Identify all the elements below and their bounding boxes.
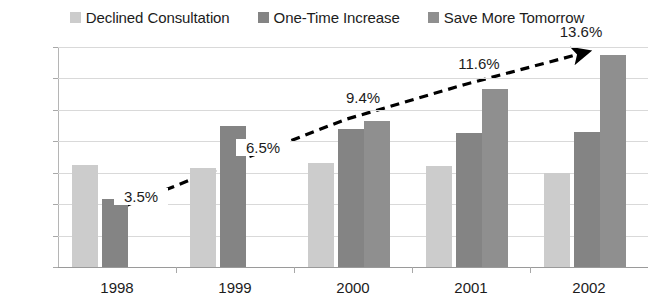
data-point-label: 11.6% <box>452 55 506 72</box>
y-axis-line <box>58 47 59 267</box>
gridline <box>58 78 648 79</box>
x-axis-tick <box>412 267 413 273</box>
y-axis-tick <box>53 267 58 268</box>
legend-item-one-time-increase: One-Time Increase <box>258 9 400 26</box>
legend-swatch-declined-consultation <box>70 12 81 23</box>
data-point-label: 6.5% <box>236 139 290 156</box>
x-axis-tick <box>176 267 177 273</box>
bar <box>456 133 482 267</box>
bar <box>600 55 626 267</box>
gridline <box>58 47 648 48</box>
bar <box>426 166 452 267</box>
y-axis-tick <box>53 78 58 79</box>
y-axis-tick <box>53 204 58 205</box>
y-axis-tick <box>53 47 58 48</box>
data-point-label: 13.6% <box>554 23 608 40</box>
bar <box>544 173 570 267</box>
bar <box>364 121 390 267</box>
y-axis-tick <box>53 236 58 237</box>
data-point-label: 9.4% <box>336 89 390 106</box>
x-axis-label: 2000 <box>294 279 412 296</box>
legend-item-declined-consultation: Declined Consultation <box>70 9 230 26</box>
data-point-label: 3.5% <box>114 188 168 205</box>
legend-label-one-time-increase: One-Time Increase <box>274 9 400 26</box>
bar <box>308 163 334 267</box>
bar <box>482 89 508 267</box>
chart-container: Declined Consultation One-Time Increase … <box>0 0 654 301</box>
bar <box>190 168 216 267</box>
chart-title-fragment <box>0 0 654 1</box>
gridline <box>58 110 648 111</box>
bar <box>102 199 128 267</box>
legend-swatch-save-more-tomorrow <box>428 12 439 23</box>
x-axis-label: 2001 <box>412 279 530 296</box>
x-axis-tick <box>294 267 295 273</box>
y-axis-tick <box>53 173 58 174</box>
bar <box>72 165 98 267</box>
x-axis-tick <box>530 267 531 273</box>
y-axis-tick <box>53 141 58 142</box>
y-axis-tick <box>53 110 58 111</box>
bar <box>574 132 600 267</box>
plot-area: 0%2%4%6%8%10%12%14%199819992000200120023… <box>58 47 648 267</box>
x-axis-label: 1999 <box>176 279 294 296</box>
legend-swatch-one-time-increase <box>258 12 269 23</box>
bar <box>338 129 364 267</box>
x-axis-label: 2002 <box>530 279 648 296</box>
legend-label-declined-consultation: Declined Consultation <box>86 9 230 26</box>
x-axis-label: 1998 <box>58 279 176 296</box>
x-axis-line <box>58 267 648 268</box>
